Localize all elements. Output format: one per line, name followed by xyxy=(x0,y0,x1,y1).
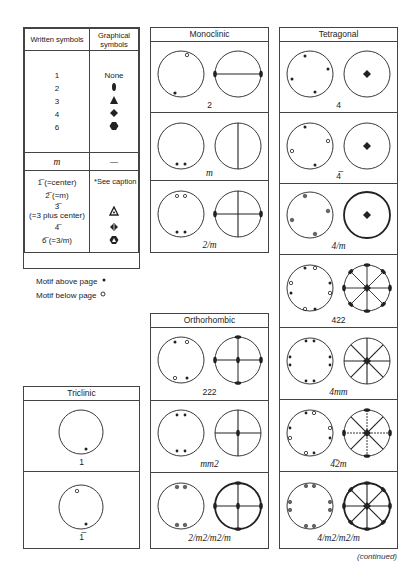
written-bar3-note: (=3 plus center) xyxy=(25,211,89,221)
continued-note: (continued) xyxy=(357,552,397,561)
triangle-inversion-icon xyxy=(90,203,138,222)
group-4-m2-m2-m: 4/m2/m2/m xyxy=(280,472,397,548)
written-bar4: 4̅ xyxy=(25,221,89,234)
header-written-symbols: Written symbols xyxy=(25,29,90,51)
group-2-m2-m2-m: 2/m2/m2/m xyxy=(151,473,268,549)
lens-diad-icon xyxy=(90,82,138,95)
open-circle-icon xyxy=(99,290,107,298)
see-caption-note: *See caption xyxy=(90,175,138,203)
group-label-bar42m: 4̅2m xyxy=(280,459,397,469)
hexagon-inversion-icon xyxy=(90,235,138,248)
group-label-422: 422 xyxy=(280,315,397,325)
tetragonal-panel: Tetragonal 4 4̅ 4/m xyxy=(279,27,398,549)
group-label-mm2: mm2 xyxy=(151,459,268,469)
graphical-none: None xyxy=(90,69,138,82)
triclinic-title: Triclinic xyxy=(24,387,139,401)
group-4-m: 4/m xyxy=(280,184,397,255)
orthorhombic-panel: Orthorhombic 222 mm2 2/m2/m2/m xyxy=(150,313,269,549)
written-4: 4 xyxy=(25,108,89,121)
group-4: 4 xyxy=(280,42,397,113)
filled-dot-icon xyxy=(100,276,108,284)
group-label-4: 4 xyxy=(280,100,397,110)
written-3: 3 xyxy=(25,95,89,108)
group-bar42m: 4̅2m xyxy=(280,400,397,472)
orthorhombic-title: Orthorhombic xyxy=(151,314,268,328)
group-1: 1 xyxy=(24,401,139,472)
written-bar6: 6̅ (=3/m) xyxy=(25,234,89,247)
group-bar1: 1̅ xyxy=(24,472,139,549)
group-label-4mm: 4mm xyxy=(280,387,397,397)
group-label-1: 1 xyxy=(24,457,139,467)
written-2: 2 xyxy=(25,82,89,95)
group-label-222: 222 xyxy=(151,387,268,397)
written-bar2: 2̅ (=m) xyxy=(25,189,89,202)
group-label-2: 2 xyxy=(151,100,268,110)
motif-above-label: Motif above page xyxy=(36,277,97,286)
group-label-2-m: 2/m xyxy=(151,240,268,250)
motif-above-note: Motif above page xyxy=(36,276,108,286)
monoclinic-panel: Monoclinic 2 m 2/m xyxy=(150,27,269,253)
rotation-written-col: 1 2 3 4 6 xyxy=(25,51,90,153)
square-inversion-icon xyxy=(90,222,138,235)
mirror-written: m xyxy=(25,153,90,171)
tetragonal-title: Tetragonal xyxy=(280,28,397,42)
group-label-2-m2-m2-m: 2/m2/m2/m xyxy=(151,533,268,543)
group-m: m xyxy=(151,113,268,181)
monoclinic-title: Monoclinic xyxy=(151,28,268,42)
motif-below-note: Motif below page xyxy=(36,290,107,300)
written-1: 1 xyxy=(25,69,89,82)
written-bar1: 1̅ (=center) xyxy=(25,176,89,189)
written-bar3: 3̅ xyxy=(25,202,89,211)
legend-table: Written symbols Graphical symbols 1 2 3 … xyxy=(23,27,140,269)
motif-below-label: Motif below page xyxy=(36,291,96,300)
square-tetrad-icon xyxy=(90,108,138,121)
header-graphical-symbols: Graphical symbols xyxy=(90,29,139,51)
group-mm2: mm2 xyxy=(151,401,268,473)
hexagon-hexad-icon xyxy=(90,121,138,134)
group-2-m: 2/m xyxy=(151,181,268,254)
rotation-graphical-col: None xyxy=(90,51,139,153)
inversion-written-col: 1̅ (=center) 2̅ (=m) 3̅ (=3 plus center)… xyxy=(25,171,90,253)
group-4mm: 4mm xyxy=(280,328,397,400)
group-2: 2 xyxy=(151,42,268,113)
group-label-4-m2-m2-m: 4/m2/m2/m xyxy=(280,533,397,543)
group-label-4-m: 4/m xyxy=(280,241,397,251)
group-bar4: 4̅ xyxy=(280,113,397,184)
triangle-triad-icon xyxy=(90,95,138,108)
group-222: 222 xyxy=(151,328,268,401)
written-6: 6 xyxy=(25,121,89,134)
inversion-graphical-col: *See caption xyxy=(90,171,139,253)
group-label-bar4: 4̅ xyxy=(280,171,397,181)
group-422: 422 xyxy=(280,255,397,328)
group-label-m: m xyxy=(151,168,268,178)
triclinic-panel: Triclinic 1 1̅ xyxy=(23,386,140,549)
mirror-graphical: — xyxy=(90,153,139,171)
group-label-bar1: 1̅ xyxy=(24,532,139,542)
